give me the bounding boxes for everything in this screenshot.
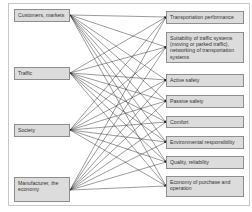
node-label: Comfort <box>170 119 188 125</box>
left-node-manufacturer: Manufacturer, the economy <box>14 177 70 202</box>
right-node-suitability: Suitability of traffic systems (moving o… <box>166 32 244 63</box>
node-label: Customers, markets <box>18 12 64 18</box>
node-label: Quality, reliability <box>170 159 209 165</box>
node-label: Passive safety <box>170 98 203 104</box>
node-label: Economy of purchase and operation <box>170 179 230 191</box>
right-node-comfort: Comfort <box>166 116 244 128</box>
node-label: Traffic <box>18 70 32 76</box>
right-node-transport: Transportation performance <box>166 11 244 24</box>
node-label: Suitability of traffic systems (moving o… <box>170 35 234 60</box>
right-node-quality: Quality, reliability <box>166 156 244 169</box>
left-node-society: Society <box>14 124 70 137</box>
right-node-environment: Environmental responsibility <box>166 136 244 149</box>
node-label: Active safety <box>170 77 199 83</box>
node-label: Environmental responsibility <box>170 139 235 145</box>
right-node-economy: Economy of purchase and operation <box>166 176 244 197</box>
right-node-active-safety: Active safety <box>166 74 244 87</box>
node-label: Manufacturer, the economy <box>18 180 58 192</box>
left-node-traffic: Traffic <box>14 67 70 80</box>
right-node-passive-safety: Passive safety <box>166 95 244 108</box>
node-label: Society <box>18 127 35 133</box>
node-label: Transportation performance <box>170 14 234 20</box>
left-node-customers: Customers, markets <box>14 9 70 22</box>
